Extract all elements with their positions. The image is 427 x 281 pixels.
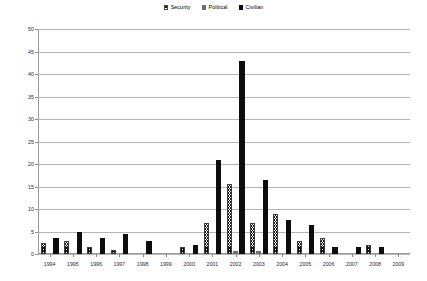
bar-chart: 05101520253035404550 1994199519961997199… <box>38 29 410 254</box>
y-tick-label-0: 0 <box>31 251 34 257</box>
x-tick-label-2008: 2008 <box>369 261 381 267</box>
bar-group-2006: 2006 <box>317 29 340 254</box>
x-tick-label-2004: 2004 <box>276 261 288 267</box>
bar-group-1995: 1995 <box>61 29 84 254</box>
x-tick-label-1999: 1999 <box>160 261 172 267</box>
y-tick-label-30: 30 <box>28 116 34 122</box>
x-tick-label-1998: 1998 <box>137 261 149 267</box>
x-tick-mark-2006 <box>329 254 330 257</box>
bar-series-container: 1994199519961997199819992000200120022003… <box>38 29 410 254</box>
x-tick-mark-1995 <box>73 254 74 257</box>
x-tick-mark-2004 <box>282 254 283 257</box>
black-swatch-icon <box>239 5 244 10</box>
x-tick-label-1997: 1997 <box>113 261 125 267</box>
bar-civilian-2004 <box>286 220 291 254</box>
bar-civilian-2007 <box>356 247 361 254</box>
x-tick-mark-1997 <box>119 254 120 257</box>
gray-swatch-icon <box>202 5 207 10</box>
hatch-swatch-icon <box>164 5 169 10</box>
bar-security-2004 <box>273 214 278 255</box>
bar-security-1997 <box>111 250 116 255</box>
bar-group-2005: 2005 <box>294 29 317 254</box>
legend-item-security: Security <box>164 5 191 10</box>
x-tick-mark-1996 <box>96 254 97 257</box>
x-tick-label-2002: 2002 <box>230 261 242 267</box>
bar-civilian-1996 <box>100 238 105 254</box>
bar-group-1996: 1996 <box>85 29 108 254</box>
y-tick-label-15: 15 <box>28 184 34 190</box>
bar-civilian-2002 <box>239 61 244 255</box>
y-tick-label-45: 45 <box>28 49 34 55</box>
x-tick-label-2003: 2003 <box>253 261 265 267</box>
x-tick-mark-1994 <box>50 254 51 257</box>
bar-group-2001: 2001 <box>201 29 224 254</box>
bar-security-1994 <box>41 243 46 254</box>
bar-civilian-2000 <box>193 245 198 254</box>
x-tick-label-1995: 1995 <box>67 261 79 267</box>
x-tick-mark-2003 <box>259 254 260 257</box>
bar-civilian-1994 <box>53 238 58 254</box>
bar-security-2008 <box>366 245 371 254</box>
bar-civilian-2001 <box>216 160 221 255</box>
bar-group-2000: 2000 <box>178 29 201 254</box>
bar-group-1998: 1998 <box>131 29 154 254</box>
y-tick-label-40: 40 <box>28 71 34 77</box>
bar-security-2002 <box>227 184 232 254</box>
y-tick-label-5: 5 <box>31 229 34 235</box>
bar-civilian-1995 <box>77 232 82 255</box>
bar-security-1996 <box>87 247 92 254</box>
bar-security-2003 <box>250 223 255 255</box>
bar-group-2002: 2002 <box>224 29 247 254</box>
x-tick-mark-2001 <box>212 254 213 257</box>
legend-label-civilian: Civilian <box>246 5 264 10</box>
chart-legend: Security Political Civilian <box>0 5 427 10</box>
x-tick-label-1996: 1996 <box>90 261 102 267</box>
bar-group-1999: 1999 <box>154 29 177 254</box>
x-tick-label-2007: 2007 <box>346 261 358 267</box>
bar-security-1995 <box>64 241 69 255</box>
x-tick-mark-1999 <box>166 254 167 257</box>
x-tick-mark-2002 <box>236 254 237 257</box>
legend-label-political: Political <box>209 5 228 10</box>
legend-item-political: Political <box>202 5 228 10</box>
bar-group-2004: 2004 <box>271 29 294 254</box>
y-tick-label-35: 35 <box>28 94 34 100</box>
bar-civilian-2005 <box>309 225 314 254</box>
y-tick-mark-0 <box>35 254 38 255</box>
bar-group-2003: 2003 <box>247 29 270 254</box>
x-tick-mark-2008 <box>375 254 376 257</box>
x-tick-label-2005: 2005 <box>299 261 311 267</box>
bar-security-2000 <box>180 247 185 254</box>
bar-group-1994: 1994 <box>38 29 61 254</box>
x-tick-mark-2005 <box>305 254 306 257</box>
x-tick-label-1994: 1994 <box>44 261 56 267</box>
x-tick-mark-2007 <box>352 254 353 257</box>
bar-security-2006 <box>320 238 325 254</box>
x-tick-label-2006: 2006 <box>323 261 335 267</box>
x-tick-mark-2000 <box>189 254 190 257</box>
y-tick-label-20: 20 <box>28 161 34 167</box>
x-tick-label-2000: 2000 <box>183 261 195 267</box>
bar-civilian-2008 <box>379 247 384 254</box>
bar-security-2005 <box>297 241 302 255</box>
bar-civilian-2006 <box>332 247 337 254</box>
x-tick-mark-1998 <box>143 254 144 257</box>
bar-civilian-1998 <box>146 241 151 255</box>
bar-civilian-1997 <box>123 234 128 254</box>
bar-security-2001 <box>204 223 209 255</box>
legend-label-security: Security <box>171 5 191 10</box>
x-tick-mark-2009 <box>398 254 399 257</box>
bar-group-2008: 2008 <box>364 29 387 254</box>
x-tick-label-2009: 2009 <box>392 261 404 267</box>
bar-group-2009: 2009 <box>387 29 410 254</box>
bar-group-1997: 1997 <box>108 29 131 254</box>
y-tick-label-50: 50 <box>28 26 34 32</box>
legend-item-civilian: Civilian <box>239 5 264 10</box>
y-tick-label-25: 25 <box>28 139 34 145</box>
gridline-0 <box>38 254 410 255</box>
y-tick-label-10: 10 <box>28 206 34 212</box>
bar-group-2007: 2007 <box>340 29 363 254</box>
bar-civilian-2003 <box>263 180 268 254</box>
x-tick-label-2001: 2001 <box>206 261 218 267</box>
